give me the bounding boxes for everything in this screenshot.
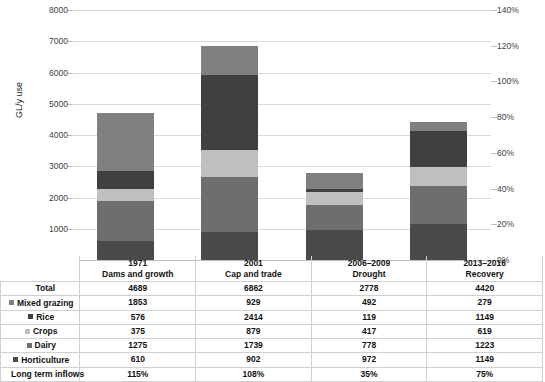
table-cell: 929 bbox=[196, 296, 312, 310]
bar-segment-rice bbox=[97, 171, 154, 189]
bar-segment-crops bbox=[410, 167, 467, 186]
secondary-axis-tick-label: 100% bbox=[497, 76, 519, 86]
table-cell: 1223 bbox=[427, 339, 543, 353]
secondary-axis-tick-label: 20% bbox=[497, 219, 514, 229]
y-axis-tick-label: 5000 bbox=[49, 99, 68, 109]
table-cell: 1149 bbox=[427, 353, 543, 367]
table-cell: 375 bbox=[80, 324, 196, 338]
bar-segment-rice bbox=[410, 131, 467, 167]
legend-swatch-icon bbox=[9, 300, 14, 305]
category-name: Cap and trade bbox=[196, 269, 311, 280]
category-period: 2013–2016 bbox=[427, 258, 542, 269]
legend-swatch-icon bbox=[25, 329, 30, 334]
table-row-label: Horticulture bbox=[1, 353, 80, 367]
table-cell: 35% bbox=[311, 367, 427, 381]
table-cell: 279 bbox=[427, 296, 543, 310]
bar-segment-rice bbox=[306, 189, 363, 193]
bar-segment-dairy bbox=[201, 177, 258, 231]
plot-canvas: 0100020003000400050006000700080000%20%40… bbox=[73, 10, 491, 260]
table-row: Rice57624141191149 bbox=[1, 310, 543, 324]
bar-segment-rice bbox=[201, 75, 258, 150]
data-table: 1971Dams and growth2001Cap and trade2006… bbox=[0, 256, 543, 382]
table-cell: 4689 bbox=[80, 282, 196, 296]
table-cell: 972 bbox=[311, 353, 427, 367]
table-row-label: Dairy bbox=[1, 339, 80, 353]
row-label-text: Long term inflows bbox=[11, 368, 84, 381]
bar-segment-mixed-grazing bbox=[201, 46, 258, 75]
table-corner-cell bbox=[1, 256, 80, 282]
y-axis-tick-label: 7000 bbox=[49, 36, 68, 46]
table-cell: 108% bbox=[196, 367, 312, 381]
table-cell: 75% bbox=[427, 367, 543, 381]
table-cell: 2414 bbox=[196, 310, 312, 324]
table-header-row: 1971Dams and growth2001Cap and trade2006… bbox=[1, 256, 543, 282]
y-axis-tick-label: 2000 bbox=[49, 193, 68, 203]
table-header-cell: 1971Dams and growth bbox=[80, 256, 196, 282]
table-row-label: Long term inflows bbox=[1, 367, 80, 381]
y-axis-tick-label: 3000 bbox=[49, 161, 68, 171]
legend-swatch-icon bbox=[27, 343, 32, 348]
table-row: Horticulture6109029721149 bbox=[1, 353, 543, 367]
bar-segment-mixed-grazing bbox=[410, 122, 467, 131]
table-cell: 902 bbox=[196, 353, 312, 367]
plot-area: GL/y use 0100020003000400050006000700080… bbox=[0, 0, 545, 268]
secondary-axis-tick-label: 140% bbox=[497, 5, 519, 15]
secondary-axis-tick-label: 60% bbox=[497, 148, 514, 158]
secondary-axis-tick-label: 80% bbox=[497, 112, 514, 122]
secondary-axis-tick-label: 40% bbox=[497, 184, 514, 194]
table-cell: 4420 bbox=[427, 282, 543, 296]
table-cell: 576 bbox=[80, 310, 196, 324]
category-period: 1971 bbox=[80, 258, 195, 269]
y-axis-tick-label: 4000 bbox=[49, 130, 68, 140]
table-header-cell: 2001Cap and trade bbox=[196, 256, 312, 282]
table-cell: 610 bbox=[80, 353, 196, 367]
category-name: Drought bbox=[312, 269, 427, 280]
table-row: Crops375879417619 bbox=[1, 324, 543, 338]
table-row-label: Mixed grazing bbox=[1, 296, 80, 310]
row-label-text: Total bbox=[35, 282, 55, 295]
category-name: Dams and growth bbox=[80, 269, 195, 280]
y-axis-tick-label: 8000 bbox=[49, 5, 68, 15]
table-cell: 1739 bbox=[196, 339, 312, 353]
row-label-text: Crops bbox=[33, 325, 58, 338]
bar-segment-dairy bbox=[97, 201, 154, 241]
table-cell: 6862 bbox=[196, 282, 312, 296]
table-row: Dairy127517397781223 bbox=[1, 339, 543, 353]
bar-column bbox=[201, 10, 258, 260]
table-row-label: Rice bbox=[1, 310, 80, 324]
row-label-text: Dairy bbox=[35, 339, 56, 352]
bar-segment-crops bbox=[306, 192, 363, 205]
bar-segment-crops bbox=[97, 189, 154, 201]
y-axis-title: GL/y use bbox=[14, 82, 24, 118]
table-cell: 778 bbox=[311, 339, 427, 353]
y-axis-tick-label: 1000 bbox=[49, 224, 68, 234]
bar-column bbox=[97, 10, 154, 260]
bar-segment-dairy bbox=[410, 186, 467, 224]
table-cell: 492 bbox=[311, 296, 427, 310]
table-cell: 1853 bbox=[80, 296, 196, 310]
legend-swatch-icon bbox=[28, 314, 33, 319]
category-period: 2006–2009 bbox=[312, 258, 427, 269]
row-label-text: Rice bbox=[36, 311, 54, 324]
bar-segment-crops bbox=[201, 150, 258, 177]
table-row: Mixed grazing1853929492279 bbox=[1, 296, 543, 310]
table-cell: 119 bbox=[311, 310, 427, 324]
row-label-text: Horticulture bbox=[21, 354, 69, 367]
table-row: Total4689686227784420 bbox=[1, 282, 543, 296]
category-name: Recovery bbox=[427, 269, 542, 280]
legend-swatch-icon bbox=[13, 357, 18, 362]
bar-segment-mixed-grazing bbox=[306, 173, 363, 188]
table-cell: 2778 bbox=[311, 282, 427, 296]
row-label-text: Mixed grazing bbox=[17, 297, 74, 310]
table-row-label: Total bbox=[1, 282, 80, 296]
table-cell: 879 bbox=[196, 324, 312, 338]
table-cell: 1149 bbox=[427, 310, 543, 324]
bar-segment-dairy bbox=[306, 205, 363, 229]
table-header-cell: 2013–2016Recovery bbox=[427, 256, 543, 282]
table-row-label: Crops bbox=[1, 324, 80, 338]
bar-column bbox=[306, 10, 363, 260]
bar-segment-horticulture bbox=[410, 224, 467, 260]
bar-segment-mixed-grazing bbox=[97, 113, 154, 171]
table-row: Long term inflows115%108%35%75% bbox=[1, 367, 543, 381]
